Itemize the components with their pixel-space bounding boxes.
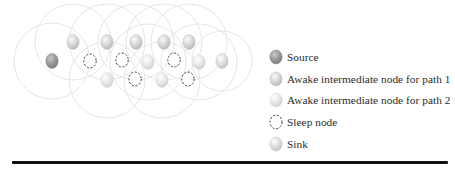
legend-label-path1: Awake intermediate node for path 1 bbox=[287, 73, 450, 85]
bottom-rule bbox=[12, 161, 448, 164]
sleep-node bbox=[129, 72, 141, 86]
path2-node bbox=[101, 73, 113, 88]
legend-item-source: Source bbox=[268, 46, 455, 68]
legend: Source Awake intermediate node for path … bbox=[268, 46, 455, 155]
network-nodes bbox=[46, 35, 228, 88]
sink-node bbox=[216, 54, 228, 69]
path2-node bbox=[142, 55, 154, 70]
legend-label-sleep: Sleep node bbox=[287, 116, 337, 128]
network-diagram bbox=[0, 0, 260, 140]
legend-label-source: Source bbox=[287, 51, 319, 63]
path2-node-icon bbox=[268, 92, 284, 108]
sleep-node bbox=[182, 72, 194, 86]
legend-item-path2: Awake intermediate node for path 2 bbox=[268, 90, 455, 112]
legend-item-sink: Sink bbox=[268, 133, 455, 155]
path2-node bbox=[193, 55, 205, 70]
path1-node bbox=[130, 35, 142, 50]
path1-node bbox=[183, 35, 195, 50]
source-node bbox=[46, 54, 58, 69]
sleep-node bbox=[116, 53, 128, 67]
network-figure: Source Awake intermediate node for path … bbox=[0, 0, 455, 169]
legend-label-path2: Awake intermediate node for path 2 bbox=[287, 94, 450, 106]
path2-node bbox=[156, 73, 168, 88]
legend-item-sleep: Sleep node bbox=[268, 111, 455, 133]
legend-label-sink: Sink bbox=[287, 138, 308, 150]
path1-node bbox=[158, 35, 170, 50]
source-node-icon bbox=[268, 49, 284, 65]
path1-node bbox=[101, 35, 113, 50]
path1-node bbox=[67, 35, 79, 50]
sink-node-icon bbox=[268, 136, 284, 152]
sleep-node-icon bbox=[268, 114, 284, 130]
sleep-node bbox=[168, 53, 180, 67]
legend-item-path1: Awake intermediate node for path 1 bbox=[268, 68, 455, 90]
path1-node-icon bbox=[268, 71, 284, 87]
sleep-node bbox=[84, 54, 96, 68]
